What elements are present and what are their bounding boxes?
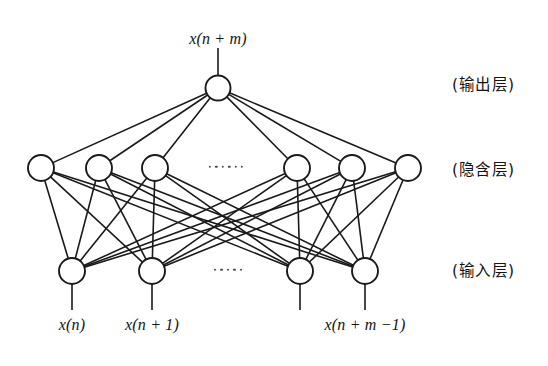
layer-label-hidden: (隐含层) <box>452 157 515 179</box>
output-signal-label: x(n + m) <box>189 30 247 48</box>
edge-output-hidden <box>53 93 207 162</box>
edge-hidden-input <box>45 180 69 258</box>
edge-hidden-input <box>297 181 299 258</box>
hidden-node <box>339 155 365 181</box>
layer-label-input: (输入层) <box>452 258 515 280</box>
input-label-2: x(n + 1) <box>125 316 179 334</box>
hidden-node <box>86 155 112 181</box>
hidden-node <box>395 155 421 181</box>
input-label-3: x(n + m −1) <box>324 316 405 334</box>
edge-output-hidden <box>163 98 210 158</box>
hidden-node <box>284 155 310 181</box>
layer-label-output: (输出层) <box>452 72 515 94</box>
edge-hidden-input <box>75 181 95 259</box>
edge-hidden-input <box>84 172 395 267</box>
edge-hidden-input <box>163 176 287 264</box>
hidden-node <box>28 155 54 181</box>
edge-output-hidden <box>227 97 288 159</box>
edge-output-hidden <box>110 95 208 161</box>
edge-output-hidden <box>230 93 396 163</box>
input-node <box>287 258 313 284</box>
edge-output-hidden <box>229 94 341 161</box>
input-node <box>139 258 165 284</box>
output-node <box>206 76 231 101</box>
edge-hidden-input <box>53 172 352 267</box>
input-layer-ellipsis <box>214 269 242 271</box>
neural-network-figure: x(n + m) x(n) x(n + 1) x(n + m −1) (输出层)… <box>0 0 548 366</box>
input-node <box>352 258 378 284</box>
network-graph-svg <box>0 0 548 366</box>
hidden-layer-ellipsis <box>209 166 243 168</box>
input-node <box>59 258 85 284</box>
hidden-node <box>142 155 168 181</box>
edge-hidden-input <box>84 172 340 266</box>
input-label-1: x(n) <box>59 316 86 334</box>
edge-hidden-input <box>370 180 403 259</box>
